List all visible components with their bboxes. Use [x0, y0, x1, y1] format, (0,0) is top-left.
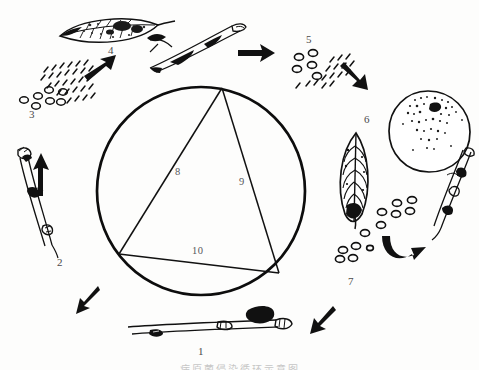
spore-mass-left	[20, 60, 95, 109]
lesioned-twig-top	[147, 24, 246, 73]
stage-label-5: 5	[306, 33, 312, 45]
stage-label-2: 2	[57, 256, 63, 268]
stage-label-7: 7	[348, 275, 354, 287]
stage-label-1: 1	[198, 345, 204, 357]
arrow-upper-left	[84, 55, 116, 81]
arrow-top-center	[238, 44, 275, 62]
stage-label-4: 4	[108, 44, 114, 56]
triangle-side-label-10: 10	[192, 245, 204, 256]
figure-canvas: 8 9 10 1 2 3 4 5 6 7 病原菌侵染循环示意图	[0, 0, 479, 370]
triangle-side-label-8: 8	[175, 166, 181, 177]
spotted-fruit	[389, 91, 470, 172]
stage-label-6: 6	[364, 113, 370, 125]
triangle-side-label-9: 9	[239, 176, 245, 187]
stage-label-3: 3	[29, 108, 35, 120]
arrow-bottom-left	[76, 286, 100, 314]
arrow-bottom-right	[310, 306, 336, 334]
arrow-lower-right-hook	[382, 236, 426, 260]
overwintering-twig-bottom	[128, 306, 292, 337]
arrow-upper-right	[340, 62, 368, 90]
figure-caption: 病原菌侵染循环示意图	[0, 361, 479, 370]
diseased-leaf-right	[340, 133, 368, 229]
